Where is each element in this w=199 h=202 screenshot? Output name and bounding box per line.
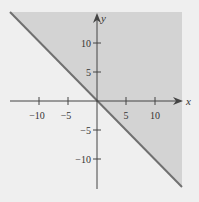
x-tick-label: −10	[29, 110, 45, 121]
x-tick-label: 5	[124, 110, 129, 121]
y-tick-label: 5	[86, 67, 91, 78]
y-axis-label: y	[100, 12, 106, 24]
x-tick-label: 10	[150, 110, 160, 121]
x-axis-label: x	[185, 95, 191, 107]
inequality-graph: x y −10 −5 5 10 10 5 −5 −10	[0, 0, 199, 202]
y-tick-label: −10	[75, 154, 91, 165]
x-tick-label: −5	[61, 110, 72, 121]
y-tick-label: 10	[81, 38, 91, 49]
y-tick-label: −5	[80, 125, 91, 136]
